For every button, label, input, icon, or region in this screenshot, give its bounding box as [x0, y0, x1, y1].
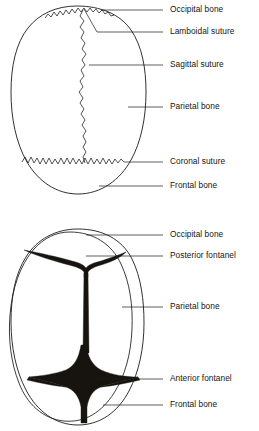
label-sagittal-suture: Sagittal suture — [170, 59, 224, 69]
label-parietal-bone: Parietal bone — [170, 101, 220, 111]
label-anterior-fontanel: Anterior fontanel — [170, 373, 232, 383]
label-occipital-bone-2: Occipital bone — [170, 229, 224, 239]
figure-superior-view-sutures: Occipital bone Lamboidal suture Sagittal… — [0, 0, 259, 215]
skull-sutures-svg: Occipital bone Lamboidal suture Sagittal… — [0, 0, 259, 215]
label-lamboidal-suture: Lamboidal suture — [170, 26, 235, 36]
label-parietal-bone-2: Parietal bone — [170, 301, 220, 311]
label-frontal-bone: Frontal bone — [170, 180, 218, 190]
sagittal-suture-band — [83, 273, 89, 353]
label-occipital-bone: Occipital bone — [170, 4, 224, 14]
label-coronal-suture: Coronal suture — [170, 156, 225, 166]
label-frontal-bone-2: Frontal bone — [170, 399, 218, 409]
skull-fontanels-svg: Occipital bone Posterior fontanel Pariet… — [0, 215, 259, 431]
skull-outline-top — [11, 6, 146, 194]
label-posterior-fontanel: Posterior fontanel — [170, 250, 236, 260]
figure-superior-view-fontanels: Occipital bone Posterior fontanel Pariet… — [0, 215, 259, 431]
